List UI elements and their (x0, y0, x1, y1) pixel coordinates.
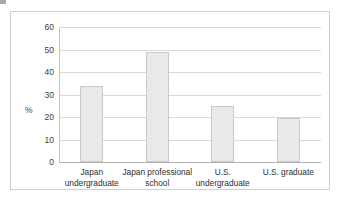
bar-2 (146, 52, 169, 162)
gridline-50: 50 (59, 50, 321, 51)
y-tick-label-10: 10 (45, 135, 54, 144)
y-tick-label-30: 30 (45, 90, 54, 99)
x-tick-label-4: U.S. graduate (252, 167, 326, 178)
gridline-0: 0 (59, 162, 321, 163)
y-tick-label-50: 50 (45, 45, 54, 54)
x-tick-label-3: U.S. undergraduate (186, 167, 260, 189)
x-tick-label-1: Japan undergraduate (55, 167, 129, 189)
bar-4 (277, 118, 300, 162)
bar-3 (211, 106, 234, 162)
bar-1 (80, 86, 103, 163)
x-axis-labels-group: Japan undergraduateJapan professional sc… (59, 167, 321, 197)
y-tick-label-40: 40 (45, 68, 54, 77)
plot-area: 0102030405060 (59, 27, 321, 162)
bar-chart-figure: % 0102030405060 Japan undergraduateJapan… (0, 0, 344, 210)
y-tick-label-20: 20 (45, 113, 54, 122)
scan-artifact-speck (0, 0, 6, 4)
chart-frame: % 0102030405060 Japan undergraduateJapan… (10, 11, 330, 190)
y-tick-label-0: 0 (49, 158, 54, 167)
gridline-60: 60 (59, 27, 321, 28)
x-tick-label-2: Japan professional school (121, 167, 195, 189)
y-axis-unit-label: % (25, 106, 33, 115)
gridline-40: 40 (59, 72, 321, 73)
y-tick-label-60: 60 (45, 23, 54, 32)
